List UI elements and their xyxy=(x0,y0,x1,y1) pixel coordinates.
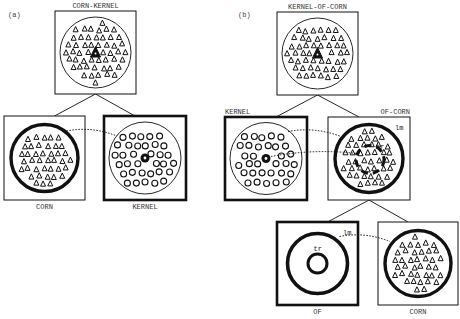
panel-label-b: (b) xyxy=(238,11,251,19)
label-tr: tr xyxy=(376,143,384,151)
label-tr: tr xyxy=(314,245,322,253)
concept-combination-diagram: (a) (b) CORN-KERNELCORNKERNELKERNEL-OF-C… xyxy=(0,0,460,319)
tree-edge xyxy=(96,94,136,116)
tree-edge xyxy=(55,94,96,116)
tree-edge xyxy=(276,95,318,117)
node-kernel: KERNEL xyxy=(104,116,186,211)
node-frame xyxy=(378,222,458,305)
node-label: KERNEL xyxy=(225,108,250,116)
node-kernel: KERNEL xyxy=(225,108,307,200)
label-lm: lm xyxy=(395,124,403,132)
tree-edge xyxy=(318,95,360,117)
node-kernel-of-corn: KERNEL-OF-CORN xyxy=(277,3,358,95)
node-of-corn: lmtrOF-CORN xyxy=(328,108,410,200)
node-label: CORN xyxy=(410,308,427,316)
tree-edge xyxy=(369,200,408,222)
center-dot-hole xyxy=(265,157,268,160)
center-dot xyxy=(317,54,319,56)
node-label: KERNEL-OF-CORN xyxy=(288,3,347,11)
node-corn: CORN xyxy=(378,222,458,316)
node-label: OF xyxy=(313,308,321,316)
panel-label-a: (a) xyxy=(8,11,21,19)
tree-edge xyxy=(328,200,370,222)
nodes: CORN-KERNELCORNKERNELKERNEL-OF-CORNKERNE… xyxy=(4,2,458,316)
node-frame xyxy=(4,116,85,200)
label-lm: lm xyxy=(343,229,351,237)
node-label: CORN xyxy=(36,203,53,211)
node-corn-kernel: CORN-KERNEL xyxy=(55,2,136,94)
node-label: CORN-KERNEL xyxy=(72,2,118,10)
center-dot-hole xyxy=(144,157,147,160)
center-dot xyxy=(95,53,97,55)
node-label: OF-CORN xyxy=(381,108,410,116)
node-label: KERNEL xyxy=(132,203,157,211)
node-of: lmtrOF xyxy=(277,222,358,316)
